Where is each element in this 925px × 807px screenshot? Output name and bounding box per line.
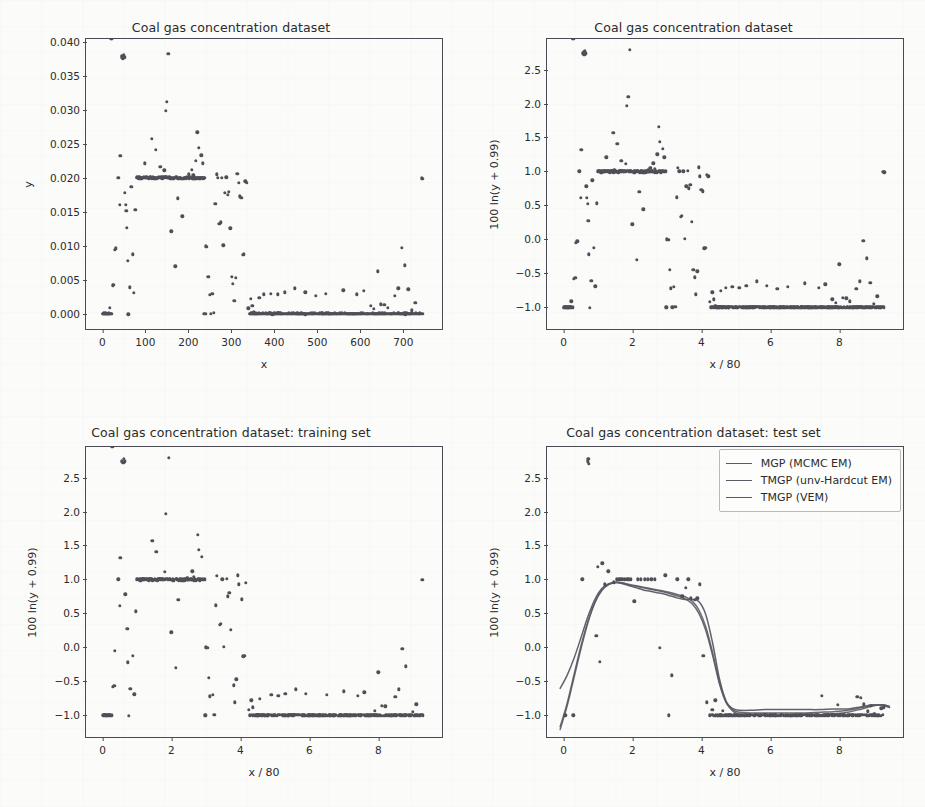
legend-line-swatch-tmgp-vem (726, 497, 752, 498)
data-point (594, 285, 597, 288)
data-point (119, 154, 122, 157)
data-point (249, 297, 252, 300)
data-point (276, 292, 279, 295)
data-point (244, 581, 247, 584)
data-point (237, 582, 240, 585)
data-point (588, 306, 591, 309)
data-point (629, 578, 632, 581)
data-point (257, 296, 260, 299)
data-point (404, 665, 407, 668)
data-point (293, 286, 296, 289)
x-axis-label-top-right: x / 80 (546, 358, 904, 371)
data-point (603, 582, 606, 585)
data-point (865, 257, 868, 260)
data-point (131, 654, 134, 657)
y-tick-label: −1.0 (55, 709, 87, 721)
panel-top-right: Coal gas concentration dataset 100 ln(y … (462, 0, 925, 400)
y-tick-label: −0.5 (516, 675, 548, 687)
y-tick-label: 0.0 (524, 233, 547, 245)
x-tick-label: 2 (629, 329, 636, 348)
data-point (177, 598, 180, 601)
x-tick-label: 700 (393, 329, 413, 348)
data-point (205, 245, 208, 248)
data-point (165, 100, 168, 103)
plot-area-bottom-right: MGP (MCMC EM) TMGP (unv-Hardcut EM) TMGP… (546, 446, 904, 738)
data-point (167, 52, 170, 55)
data-point (836, 703, 839, 706)
data-point (687, 578, 690, 581)
data-point (134, 610, 137, 613)
data-point (421, 177, 424, 180)
y-tick-label: −1.0 (516, 301, 548, 313)
data-point (110, 39, 113, 41)
data-point (574, 276, 577, 279)
y-tick-label: −1.0 (516, 709, 548, 721)
data-point (862, 703, 865, 706)
data-point (628, 48, 631, 51)
scatter-layer-bottom-left (86, 447, 442, 737)
data-point (170, 631, 173, 634)
data-point (883, 170, 886, 173)
y-tick-label: 0.030 (50, 104, 86, 116)
data-point (123, 460, 126, 463)
data-point (661, 147, 664, 150)
data-point (215, 574, 218, 577)
data-point (204, 312, 207, 315)
data-point (576, 240, 579, 243)
data-point (592, 246, 595, 249)
data-point (665, 306, 668, 309)
data-point (605, 155, 608, 158)
data-point (117, 578, 120, 581)
data-point (858, 280, 861, 283)
data-point (584, 52, 587, 55)
y-axis-label-bottom-left: 100 ln(y + 0.99) (26, 533, 39, 653)
data-point (707, 174, 710, 177)
data-point (744, 284, 747, 287)
data-point (704, 246, 707, 249)
data-point (202, 177, 205, 180)
data-point (803, 282, 806, 285)
legend-line-swatch-mgp-mcmc-em (726, 463, 752, 464)
data-point (589, 279, 592, 282)
x-tick-label: 600 (350, 329, 370, 348)
x-tick-label: 2 (629, 737, 636, 756)
x-tick-label: 8 (836, 329, 843, 348)
data-point (676, 578, 679, 581)
data-point (206, 646, 209, 649)
data-point (570, 306, 573, 309)
y-tick-label: 0.0 (524, 641, 547, 653)
y-tick-label: 0.025 (50, 138, 86, 150)
y-tick-label: 1.0 (524, 573, 547, 585)
legend-item-tmgp-vem[interactable]: TMGP (VEM) (726, 489, 892, 506)
data-point (229, 227, 232, 230)
data-point (848, 299, 851, 302)
data-point (696, 270, 699, 273)
data-point (580, 148, 583, 151)
y-tick-label: 0.0 (63, 641, 86, 653)
data-point (882, 705, 885, 708)
data-point (164, 109, 167, 112)
data-point (109, 714, 112, 717)
y-tick-label: 0.000 (50, 308, 86, 320)
y-tick-label: 0.5 (524, 199, 547, 211)
data-point (721, 709, 724, 712)
data-point (176, 197, 179, 200)
y-axis-label-bottom-right: 100 ln(y + 0.99) (488, 533, 501, 653)
x-axis-label-top-left: x (85, 358, 443, 371)
data-point (689, 183, 692, 186)
data-point (724, 286, 727, 289)
y-tick-label: 2.0 (524, 506, 547, 518)
data-point (698, 174, 701, 177)
data-point (163, 570, 166, 573)
data-point (680, 214, 683, 217)
data-point (585, 185, 588, 188)
legend-item-mgp-mcmc-em[interactable]: MGP (MCMC EM) (726, 455, 892, 472)
data-point (211, 693, 214, 696)
data-point (684, 586, 687, 589)
legend-item-tmgp-unv-hardcut-em[interactable]: TMGP (unv-Hardcut EM) (726, 472, 892, 489)
plot-area-top-left: 0.0000.0050.0100.0150.0200.0250.0300.035… (85, 38, 443, 330)
x-tick-label: 6 (306, 737, 313, 756)
data-point (233, 299, 236, 302)
data-point (196, 131, 199, 134)
data-point (817, 286, 820, 289)
